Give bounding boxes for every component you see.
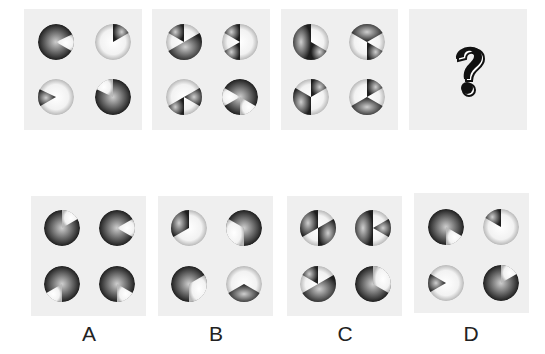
disc [44,210,80,246]
disc [428,265,464,301]
disc [38,24,74,60]
question-panel-4 [409,9,527,130]
disc [38,79,74,115]
disc [166,79,202,115]
disc [428,209,464,245]
disc [355,266,391,302]
disc [226,266,262,302]
disc [355,210,391,246]
disc [99,210,135,246]
disc [349,24,385,60]
question-mark-icon [409,9,527,130]
disc [300,266,336,302]
disc [226,210,262,246]
disc [349,79,385,115]
option-label-d: D [451,322,491,346]
disc [300,210,336,246]
question-panel-2 [152,9,270,130]
disc [222,24,258,60]
disc [483,209,519,245]
disc [222,79,258,115]
option-label-b: B [196,322,236,346]
disc [95,79,131,115]
disc [44,266,80,302]
disc [171,210,207,246]
disc [293,24,329,60]
disc [95,24,131,60]
disc [483,265,519,301]
disc [166,24,202,60]
disc [171,266,207,302]
option-label-a: A [69,322,109,346]
disc [99,266,135,302]
option-label-c: C [325,322,365,346]
disc [293,79,329,115]
